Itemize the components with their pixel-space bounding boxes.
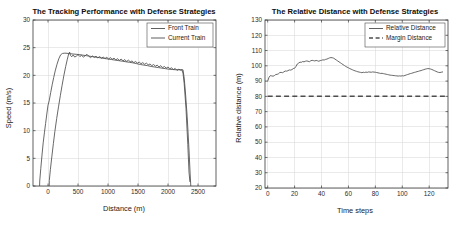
figure-canvas: The Tracking Performance with Defense St…	[0, 0, 459, 229]
legend-label-relative-distance: Relative Distance	[386, 24, 436, 31]
svg-text:500: 500	[73, 188, 84, 195]
data-series-right	[268, 58, 446, 97]
svg-text:120: 120	[251, 32, 262, 39]
y-axis-title-right: Relative distance (m)	[234, 73, 243, 142]
svg-text:20: 20	[23, 72, 31, 79]
svg-text:2000: 2000	[161, 188, 176, 195]
svg-text:30: 30	[23, 16, 31, 23]
svg-text:90: 90	[255, 77, 263, 84]
relative-distance-svg: The Relative Distance with Defense Strat…	[229, 0, 459, 229]
tracking-performance-svg: The Tracking Performance with Defense St…	[0, 0, 229, 229]
svg-text:20: 20	[255, 184, 263, 191]
svg-text:70: 70	[255, 108, 263, 115]
svg-text:1000: 1000	[101, 188, 116, 195]
chart-title-right: The Relative Distance with Defense Strat…	[272, 7, 438, 16]
x-axis-title-left: Distance (m)	[103, 204, 145, 213]
svg-text:0: 0	[46, 188, 50, 195]
svg-text:10: 10	[23, 127, 31, 134]
svg-text:5: 5	[26, 155, 30, 162]
svg-text:40: 40	[255, 154, 263, 161]
svg-text:60: 60	[255, 123, 263, 130]
svg-text:110: 110	[252, 47, 263, 54]
legend-right[interactable]: Relative DistanceMargin Distance	[365, 23, 445, 47]
svg-text:20: 20	[291, 190, 299, 197]
svg-text:50: 50	[255, 138, 263, 145]
svg-text:0: 0	[266, 190, 270, 197]
svg-text:100: 100	[251, 62, 262, 69]
svg-text:0: 0	[26, 182, 30, 189]
legend-left[interactable]: Front TrainCurrent Train	[147, 23, 213, 47]
svg-text:80: 80	[255, 93, 263, 100]
x-axis-title-right: Time steps	[337, 206, 373, 215]
svg-text:130: 130	[251, 16, 262, 23]
series-current-train	[49, 52, 190, 186]
svg-text:2500: 2500	[191, 188, 206, 195]
svg-text:15: 15	[23, 99, 31, 106]
chart-panel-tracking-performance: The Tracking Performance with Defense St…	[0, 0, 229, 229]
y-axis-title-left: Speed (m/s)	[4, 88, 13, 128]
svg-text:80: 80	[372, 190, 380, 197]
svg-text:25: 25	[23, 44, 31, 51]
legend-label-margin-distance: Margin Distance	[386, 34, 433, 42]
svg-text:30: 30	[255, 169, 263, 176]
chart-panel-relative-distance: The Relative Distance with Defense Strat…	[229, 0, 459, 229]
legend-label-current-train: Current Train	[168, 34, 206, 41]
svg-text:40: 40	[318, 190, 326, 197]
legend-label-front-train: Front Train	[168, 24, 199, 31]
svg-text:60: 60	[345, 190, 353, 197]
svg-text:1500: 1500	[131, 188, 146, 195]
svg-text:120: 120	[424, 190, 435, 197]
series-relative-distance	[268, 58, 443, 82]
svg-text:100: 100	[397, 190, 408, 197]
chart-title-left: The Tracking Performance with Defense St…	[32, 7, 215, 16]
